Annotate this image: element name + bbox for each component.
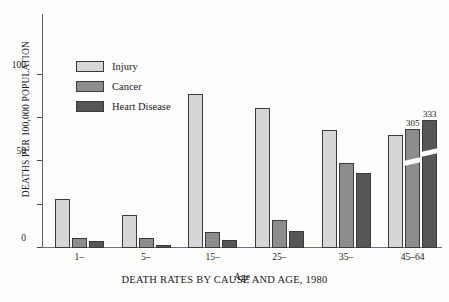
plot-area: 050100 305333 1–5–15–25–35–45–64 Age	[42, 14, 442, 248]
bar-heart-disease[interactable]	[422, 120, 437, 248]
bar-cancer[interactable]	[72, 238, 87, 248]
legend-swatch-cancer	[76, 81, 104, 92]
bar-heart-disease[interactable]	[356, 173, 371, 248]
bar-injury[interactable]	[322, 130, 337, 248]
bar-injury[interactable]	[388, 135, 403, 248]
chart-legend: InjuryCancerHeart Disease	[76, 56, 171, 116]
bar-group	[122, 14, 171, 248]
legend-item[interactable]: Cancer	[76, 76, 171, 96]
x-axis-tick-label: 1–	[75, 252, 85, 262]
bar-heart-disease[interactable]	[156, 245, 171, 248]
bar-group	[322, 14, 371, 248]
axis-break-mark	[421, 148, 439, 157]
chart-figure: DEATHS PER 100,000 POPULATION 050100 305…	[0, 0, 449, 302]
bar-value-label: 305	[406, 118, 420, 128]
y-axis-tick	[37, 74, 42, 75]
legend-label: Cancer	[112, 81, 142, 92]
y-axis-tick	[37, 160, 42, 161]
bar-cancer[interactable]	[205, 232, 220, 248]
axis-break-mark	[404, 157, 422, 166]
y-axis-tick-label: 100	[12, 60, 26, 70]
bar-cancer[interactable]	[139, 238, 154, 248]
legend-item[interactable]: Injury	[76, 56, 171, 76]
bar-heart-disease[interactable]	[289, 231, 304, 248]
x-axis-tick-label: 35–	[339, 252, 353, 262]
legend-label: Injury	[112, 61, 138, 72]
y-axis-line	[42, 14, 43, 248]
bar-injury[interactable]	[122, 215, 137, 248]
y-axis-tick	[37, 204, 42, 205]
bar-group	[188, 14, 237, 248]
bar-group	[255, 14, 304, 248]
bar-injury[interactable]	[255, 108, 270, 248]
bar-group: 305333	[388, 14, 437, 248]
x-axis-tick-label: 5–	[141, 252, 151, 262]
bar-value-label: 333	[423, 109, 437, 119]
x-axis-tick-label: 25–	[272, 252, 286, 262]
legend-item[interactable]: Heart Disease	[76, 96, 171, 116]
y-axis-label: DEATHS PER 100,000 POPULATION	[21, 19, 31, 219]
bar-group	[55, 14, 104, 248]
bar-cancer[interactable]	[405, 129, 420, 248]
y-axis-tick	[37, 247, 42, 248]
y-axis-tick	[37, 117, 42, 118]
legend-label: Heart Disease	[112, 101, 171, 112]
y-axis-tick-label: 0	[21, 233, 26, 243]
bar-cancer[interactable]	[339, 163, 354, 248]
chart-caption: DEATH RATES BY CAUSE AND AGE, 1980	[0, 274, 449, 285]
legend-swatch-heart-disease	[76, 101, 104, 112]
x-axis-tick-label: 45–64	[401, 252, 425, 262]
bar-heart-disease[interactable]	[222, 240, 237, 248]
x-axis-tick-label: 15–	[206, 252, 220, 262]
bar-cancer[interactable]	[272, 220, 287, 248]
bar-heart-disease[interactable]	[89, 241, 104, 248]
bar-injury[interactable]	[55, 199, 70, 248]
legend-swatch-injury	[76, 61, 104, 72]
y-axis-tick-label: 50	[17, 146, 27, 156]
bar-injury[interactable]	[188, 94, 203, 248]
